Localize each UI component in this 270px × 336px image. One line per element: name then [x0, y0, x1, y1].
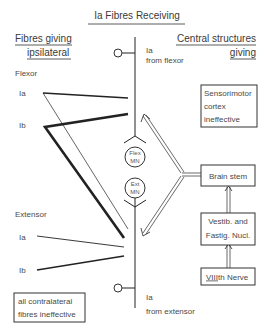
brainstem-to-flexor-pathway [141, 114, 184, 173]
vestib-nucl-box: Vestib. and Fastig. Nucl. [201, 213, 255, 245]
flexor-ia-crossing-fibre [43, 93, 128, 229]
flexor-ib-fibre [45, 114, 128, 238]
extensor-ia-label: Ia [19, 233, 26, 242]
sensorimotor-box: Sensorimotor cortex ineffective [201, 85, 257, 127]
diagram-canvas: Ia Fibres Receiving Fibres giving ipsila… [0, 0, 270, 336]
flexor-label: Flexor [15, 69, 38, 78]
svg-text:all contralateral: all contralateral [18, 297, 72, 306]
brain-stem-box: Brain stem [201, 165, 255, 186]
nerve-to-vestib-pathway [225, 244, 232, 268]
right-heading-line2: giving [230, 47, 256, 58]
top-input-source: from flexor [146, 56, 184, 65]
svg-text:ineffective: ineffective [204, 115, 240, 124]
diagram-title: Ia Fibres Receiving [94, 10, 180, 21]
brainstem-input-pathway [182, 173, 201, 176]
flex-dendrite-icon [124, 136, 146, 143]
top-input-ia: Ia [146, 46, 153, 55]
extensor-ia-fibre [37, 236, 124, 247]
contralateral-box: all contralateral fibres ineffective [14, 293, 85, 322]
bottom-terminal-icon [114, 284, 122, 292]
svg-text:cortex: cortex [204, 102, 226, 111]
flexor-ib-label: Ib [19, 121, 26, 130]
vestib-to-brainstem-pathway [225, 186, 232, 213]
svg-text:Sensorimotor: Sensorimotor [204, 89, 252, 98]
left-heading-line2: ipsilateral [27, 47, 69, 58]
bottom-input-ia: Ia [146, 293, 153, 302]
flexor-ia-label: Ia [19, 89, 26, 98]
svg-text:Vestib. and: Vestib. and [208, 217, 248, 226]
brainstem-to-extensor-pathway [141, 176, 184, 236]
flexor-ia-fibre [43, 93, 128, 98]
bottom-input-source: from extensor [146, 307, 195, 316]
top-terminal-icon [114, 49, 122, 57]
eighth-nerve-box: VIIIth Nerve [201, 268, 255, 285]
left-heading-line1: Fibres giving [15, 33, 72, 44]
extensor-label: Extensor [15, 210, 47, 219]
right-heading-line1: Central structures [177, 33, 256, 44]
ext-mn-label-2: MN [130, 189, 139, 195]
extensor-ib-fibre [37, 256, 124, 270]
svg-text:Brain stem: Brain stem [209, 172, 248, 181]
flex-mn-label-2: MN [130, 158, 139, 164]
svg-text:VIIIth Nerve: VIIIth Nerve [206, 273, 249, 282]
flex-mn-label-1: Flex [129, 150, 140, 156]
extensor-ib-label: Ib [19, 266, 26, 275]
svg-text:Fastig. Nucl.: Fastig. Nucl. [206, 231, 250, 240]
ext-mn-label-1: Ext [131, 181, 140, 187]
svg-text:fibres ineffective: fibres ineffective [18, 310, 76, 319]
